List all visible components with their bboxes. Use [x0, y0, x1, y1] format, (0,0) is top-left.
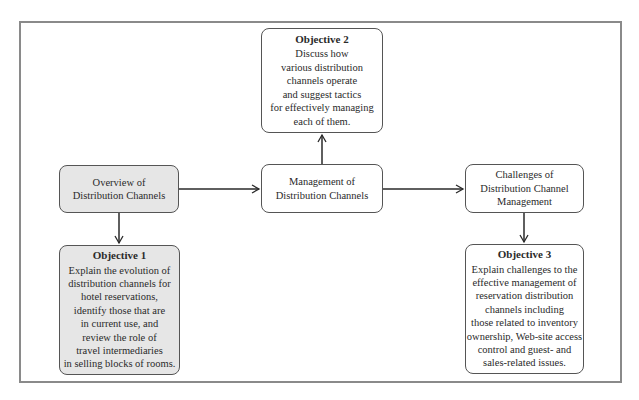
overview-label: Overview of Distribution Channels: [73, 176, 165, 203]
objective-3-box: Objective 3 Explain challenges to the ef…: [465, 244, 584, 374]
objective-3-title: Objective 3: [498, 248, 551, 261]
challenges-box: Challenges of Distribution Channel Manag…: [465, 164, 584, 213]
objective-1-text: Explain the evolution of distribution ch…: [64, 264, 176, 371]
management-box: Management of Distribution Channels: [261, 164, 383, 213]
challenges-label: Challenges of Distribution Channel Manag…: [480, 168, 568, 209]
objective-2-title: Objective 2: [295, 33, 348, 46]
management-label: Management of Distribution Channels: [276, 175, 368, 202]
objective-3-text: Explain challenges to the effective mana…: [467, 263, 582, 370]
objective-1-box: Objective 1 Explain the evolution of dis…: [59, 245, 180, 375]
objective-1-title: Objective 1: [93, 249, 146, 262]
overview-box: Overview of Distribution Channels: [59, 165, 179, 213]
objective-2-text: Discuss how various distribution channel…: [270, 47, 374, 127]
objective-2-box: Objective 2 Discuss how various distribu…: [261, 28, 383, 133]
